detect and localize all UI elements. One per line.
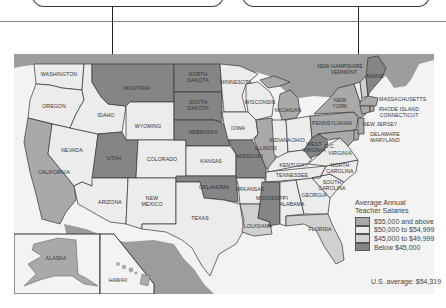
svg-text:OKLAHOMA: OKLAHOMA [199,184,230,190]
legend-item-below-45: Below $45,000 [355,243,434,252]
legend-item-50-55: $50,000 to $54,999 [355,226,434,235]
legend-swatch [355,226,370,235]
svg-text:D.C.: D.C. [325,143,336,149]
svg-text:WASHINGTON: WASHINGTON [41,71,78,77]
svg-text:IOWA: IOWA [231,125,245,131]
svg-text:IDAHO: IDAHO [98,112,115,118]
svg-text:TENNESSEE: TENNESSEE [276,172,309,178]
svg-text:PENNSYLVANIA: PENNSYLVANIA [312,120,353,126]
svg-text:WYOMING: WYOMING [135,123,162,129]
us-teacher-salary-map: WASHINGTON OREGON CALIFORNIA NEVADA IDAH… [14,54,434,294]
legend-label: $55,000 and above [374,218,434,225]
svg-text:MISSOURI: MISSOURI [237,153,263,159]
svg-text:ALABAMA: ALABAMA [279,201,305,207]
state-hawaii [140,274,150,286]
svg-text:CAROLINA: CAROLINA [318,185,346,191]
legend-swatch [355,243,370,252]
us-average-label: U.S. average: $54,319 [371,278,441,285]
legend-item-45-50: $45,000 to $49,999 [355,234,434,243]
legend-title-line2: Teacher Salaries [355,207,434,215]
svg-text:MASSACHUSETTS: MASSACHUSETTS [379,96,427,102]
svg-text:MICHIGAN: MICHIGAN [275,107,302,113]
svg-text:COLORADO: COLORADO [147,156,178,162]
svg-text:MAINE: MAINE [367,73,384,79]
state-rhode-island [370,106,374,112]
svg-text:DAKOTA: DAKOTA [187,77,209,83]
svg-text:LOUISIANA: LOUISIANA [244,223,273,229]
svg-text:CAROLINA: CAROLINA [326,168,354,174]
svg-text:TEXAS: TEXAS [191,215,209,221]
svg-text:MONTANA: MONTANA [124,85,151,91]
legend-label: $45,000 to $49,999 [374,235,434,242]
svg-text:MARYLAND: MARYLAND [370,137,400,143]
svg-text:NEBRASKA: NEBRASKA [188,129,217,135]
svg-text:KENTUCKY: KENTUCKY [279,162,308,168]
legend-label: $50,000 to $54,999 [374,226,434,233]
legend-swatch [355,217,370,226]
legend-label: Below $45,000 [374,244,420,251]
svg-text:MEXICO: MEXICO [141,201,162,207]
svg-text:OHIO: OHIO [291,137,305,143]
legend-title: Average Annual Teacher Salaries [355,199,434,215]
svg-text:VIRGINIA: VIRGINIA [328,150,352,156]
svg-text:ILLINOIS: ILLINOIS [255,145,278,151]
svg-text:NEVADA: NEVADA [61,147,83,153]
svg-text:NEW JERSEY: NEW JERSEY [363,121,398,127]
legend: Average Annual Teacher Salaries $55,000 … [355,199,434,251]
svg-text:KANSAS: KANSAS [200,158,222,164]
svg-text:ALASKA: ALASKA [46,255,67,261]
svg-text:OREGON: OREGON [42,103,66,109]
callout-box-right [242,0,430,7]
svg-text:INDIANA: INDIANA [269,137,291,143]
svg-text:ARIZONA: ARIZONA [98,199,122,205]
svg-text:YORK: YORK [332,103,348,109]
svg-text:DAKOTA: DAKOTA [187,105,209,111]
svg-text:HAWAII: HAWAII [109,277,128,283]
svg-text:MINNESOTA: MINNESOTA [220,79,252,85]
divider-line [0,21,446,22]
legend-item-55-plus: $55,000 and above [355,217,434,226]
svg-text:CALIFORNIA: CALIFORNIA [38,169,71,175]
callout-box-left [32,0,224,7]
legend-swatch [355,234,370,243]
svg-text:FLORIDA: FLORIDA [308,226,332,232]
state-wyoming [126,102,174,140]
svg-text:WISCONSIN: WISCONSIN [245,99,276,105]
svg-text:CONNECTICUT: CONNECTICUT [380,112,420,118]
svg-text:VERMONT: VERMONT [331,69,358,75]
svg-text:GEORGIA: GEORGIA [302,192,327,198]
svg-text:VIRGINIA: VIRGINIA [302,147,326,153]
svg-text:UTAH: UTAH [107,155,121,161]
alaska-inset [14,234,100,294]
svg-text:ARKANSAS: ARKANSAS [235,186,264,192]
